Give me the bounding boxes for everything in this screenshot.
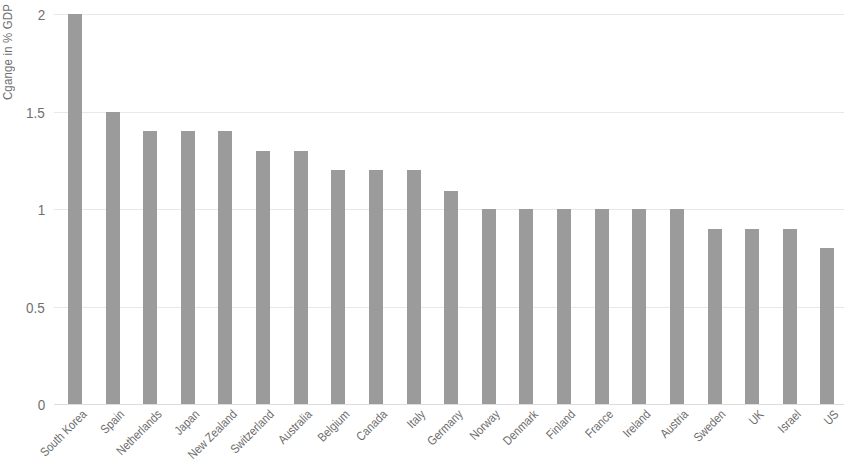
y-tick-label-text: 1.5	[26, 104, 45, 119]
bar	[557, 209, 571, 404]
bar	[595, 209, 609, 404]
y-tick-label: 2	[37, 7, 45, 22]
gridline-0	[54, 404, 844, 405]
y-tick-label-text: 2	[37, 7, 45, 22]
x-tick-label-text: Canada	[350, 408, 391, 449]
bar	[632, 209, 646, 404]
bar	[444, 191, 458, 404]
bar	[519, 209, 533, 404]
bar	[670, 209, 684, 404]
x-tick-label-text: Sweden	[688, 408, 730, 450]
y-tick-label-text: 0	[37, 397, 45, 412]
x-tick-label-text: Denmark	[496, 408, 542, 454]
bar	[482, 209, 496, 404]
x-tick-label-text: UK	[745, 408, 767, 430]
bar	[143, 131, 157, 404]
y-tick-label: 0	[37, 397, 45, 412]
y-tick-label: 1.5	[24, 104, 45, 119]
bar	[331, 170, 345, 404]
x-tick-label-text: US	[820, 408, 842, 430]
y-axis-title: Cgange in % GDP	[0, 0, 22, 142]
x-tick-label-text: Italy	[402, 408, 428, 434]
bar-chart: Cgange in % GDP 00.511.52 South KoreaSpa…	[0, 0, 849, 474]
bar	[407, 170, 421, 404]
x-tick-label-text: Japan	[169, 408, 203, 442]
bar	[68, 14, 82, 404]
x-tick-label-text: Israel	[773, 408, 804, 439]
x-tick-label-text: Finland	[540, 408, 579, 447]
x-tick-label-text: Australia	[271, 408, 315, 452]
x-tick-label-text: South Korea	[31, 408, 90, 467]
bar	[783, 229, 797, 405]
y-tick-label: 1	[37, 202, 45, 217]
x-axis-category-labels: South KoreaSpainNetherlandsJapanNew Zeal…	[54, 406, 844, 474]
bar	[369, 170, 383, 404]
bars-layer	[54, 14, 844, 404]
y-axis-title-text: Cgange in % GDP	[0, 0, 15, 131]
bar	[181, 131, 195, 404]
x-tick-label-text: Ireland	[617, 408, 654, 445]
bar	[218, 131, 232, 404]
bar	[294, 151, 308, 405]
bar	[256, 151, 270, 405]
plot-area: 00.511.52	[54, 14, 844, 404]
x-tick-label-text: France	[579, 408, 616, 445]
x-tick-label-text: Belgium	[311, 408, 353, 450]
y-tick-label-text: 1	[37, 202, 45, 217]
bar	[106, 112, 120, 405]
y-tick-label: 0.5	[24, 299, 45, 314]
x-tick-label-text: Spain	[95, 408, 127, 440]
bar	[820, 248, 834, 404]
bar	[708, 229, 722, 405]
y-tick-label-text: 0.5	[26, 299, 45, 314]
bar	[745, 229, 759, 405]
